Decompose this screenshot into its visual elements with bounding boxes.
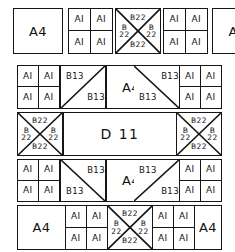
b22-triangle-right: B22 [205,113,220,155]
b22-line2: 22 [138,227,148,236]
a1-label: AI [158,212,168,221]
a1-label: AI [74,15,84,24]
b13-split-block: B13 B13 [134,65,180,109]
a1-cell: AI [186,9,208,31]
b22-cross-block: B22 B22 B22 B22 [115,8,161,54]
a1-label: AI [179,234,189,243]
a1-label: AI [44,165,54,174]
b22-label: B22 [146,24,156,38]
a1-cell: AI [87,228,108,250]
a1-label: AI [191,38,201,47]
a1-label: AI [185,72,195,81]
b22-label: B22 [138,220,148,234]
b22-label: B22 [207,127,217,141]
b22-triangle-left: B22 [109,206,124,249]
row-3-frame: B22 B22 B22 B22 D 11 B22 B22 B22 B22 [17,112,220,156]
a1-cell: AI [39,66,60,87]
a1-cell: AI [69,9,91,31]
layout-diagram: A4 AI AI AI AI B22 B22 B22 B22 AI AI AI … [0,0,235,252]
a1-label: AI [23,186,33,195]
a1-cell: AI [66,206,87,228]
a1-label: AI [92,234,102,243]
a1-cell: AI [39,87,60,108]
a1-quad-block: AI AI AI AI [68,8,113,54]
a1-cell: AI [186,31,208,53]
a1-cell: AI [201,160,222,181]
a1-label: AI [206,93,216,102]
b13-triangle-upper: B13 [134,160,180,181]
a1-label: AI [206,72,216,81]
a1-label: AI [71,234,81,243]
b22-label: B22 [119,24,129,38]
a1-label: AI [23,165,33,174]
row-2-frame: AI AI AI AI B13 B13 A4 B13 B13 [17,65,220,109]
b13-triangle-lower: B13 [61,181,106,202]
b22-line2: 22 [146,30,156,39]
a1-label: AI [96,38,106,47]
a1-label: AI [179,212,189,221]
b22-label: B22 [21,127,31,141]
a1-quad-block: AI AI AI AI [163,8,208,54]
a1-cell: AI [18,87,39,108]
a1-cell: AI [180,87,201,108]
a4-label: A4 [199,221,217,234]
a1-label: AI [74,38,84,47]
a1-label: AI [23,93,33,102]
a1-label: AI [169,38,179,47]
b22-triangle-left: B22 [178,113,193,155]
a1-cell: AI [18,66,39,87]
a1-quad-block: AI AI AI AI [179,159,222,202]
layout-row-3: B22 B22 B22 B22 D 11 B22 B22 B22 B22 [17,112,220,156]
b13-label: B13 [87,166,105,175]
a1-label: AI [44,186,54,195]
a1-cell: AI [153,228,174,250]
b13-triangle-upper: B13 [61,66,106,87]
row-4-frame: AI AI AI AI B13 B13 A4 B13 B13 [17,159,220,202]
b22-triangle-right: B22 [46,113,61,155]
a1-cell: AI [39,160,60,181]
b22-label: B22 [111,220,121,234]
b22-line2: 22 [119,30,129,39]
a1-cell: AI [18,181,39,202]
a4-panel: A4 [17,205,66,250]
a1-quad-block: AI AI AI AI [179,65,222,109]
b13-label: B13 [87,93,105,102]
b22-line2: 22 [21,133,31,142]
b13-label: B13 [139,166,157,175]
layout-row-4: AI AI AI AI B13 B13 A4 B13 B13 [17,159,220,202]
b13-split-block: B13 B13 [60,159,106,202]
a1-cell: AI [66,228,87,250]
a1-label: AI [191,15,201,24]
a1-cell: AI [180,160,201,181]
layout-row-5: A4 AI AI AI AI B22 B22 B22 B22 AI AI A [17,205,220,250]
a1-cell: AI [164,9,186,31]
b13-label: B13 [139,93,157,102]
a1-cell: AI [87,206,108,228]
layout-row-1: A4 AI AI AI AI B22 B22 B22 B22 AI AI AI … [13,7,224,55]
a1-label: AI [169,15,179,24]
b13-label: B13 [161,72,179,81]
b22-triangle-left: B22 [117,9,132,53]
d11-label: D 11 [100,127,139,141]
b22-triangle-right: B22 [136,206,151,249]
a4-panel: A4 [13,8,63,54]
b13-split-block: B13 B13 [60,65,106,109]
b13-triangle-lower: B13 [134,181,180,202]
a1-cell: AI [201,181,222,202]
a1-cell: AI [39,181,60,202]
b22-line2: 22 [180,133,190,142]
d11-panel: D 11 [63,112,177,156]
a1-cell: AI [180,66,201,87]
a1-cell: AI [174,206,195,228]
b22-line2: 22 [111,227,121,236]
a4-label: A4 [33,221,51,234]
a1-cell: AI [201,66,222,87]
a1-cell: AI [180,181,201,202]
b22-label: B22 [180,127,190,141]
a1-label: AI [206,186,216,195]
a1-quad-block: AI AI AI AI [65,205,108,250]
b13-triangle-lower: B13 [61,87,106,108]
b22-cross-block: B22 B22 B22 B22 [107,205,153,250]
a1-label: AI [92,212,102,221]
b13-label: B13 [66,72,84,81]
